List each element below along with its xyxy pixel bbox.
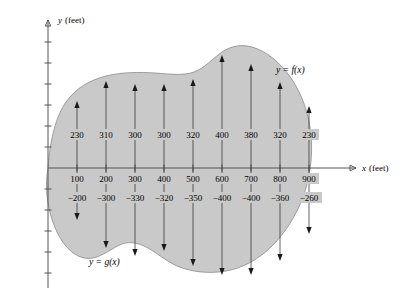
x-axis-title: x(feet) <box>361 163 388 173</box>
upper-curve-label: y = f(x) <box>275 65 305 76</box>
x-tick-label-9: 900 <box>302 174 316 184</box>
y-axis-title-unit: (feet) <box>65 15 84 25</box>
lower-value-8: −360 <box>271 193 290 203</box>
y-axis-title-var: y <box>57 15 62 25</box>
lower-value-2: −300 <box>97 193 116 203</box>
lower-value-3: −330 <box>126 193 145 203</box>
x-tick-label-8: 800 <box>273 174 287 184</box>
lower-value-1: −200 <box>68 193 87 203</box>
lower-value-labels: −200 −300 −330 −320 −350 −400 −400 −360 … <box>68 193 319 203</box>
x-tick-label-7: 700 <box>244 174 258 184</box>
upper-value-labels: 230 310 300 300 320 400 380 320 230 <box>70 130 316 140</box>
x-axis-title-var: x <box>361 163 366 173</box>
shaded-region <box>47 46 312 273</box>
upper-value-9: 230 <box>302 130 316 140</box>
upper-value-2: 310 <box>99 130 113 140</box>
region-between-curves-figure: 230 310 300 300 320 400 380 320 230 100 … <box>0 0 410 296</box>
upper-value-1: 230 <box>70 130 84 140</box>
upper-value-8: 320 <box>273 130 287 140</box>
upper-value-3: 300 <box>128 130 142 140</box>
x-axis-title-unit: (feet) <box>369 163 388 173</box>
upper-value-7: 380 <box>244 130 258 140</box>
lower-value-6: −400 <box>213 193 232 203</box>
x-tick-labels: 100 200 300 400 500 600 700 800 900 <box>70 174 316 184</box>
x-tick-label-2: 200 <box>99 174 113 184</box>
lower-value-4: −320 <box>155 193 174 203</box>
lower-curve-label: y = g(x) <box>88 257 120 268</box>
x-tick-label-6: 600 <box>215 174 229 184</box>
x-tick-label-4: 400 <box>157 174 171 184</box>
lower-value-5: −350 <box>184 193 203 203</box>
upper-value-4: 300 <box>157 130 171 140</box>
lower-value-9: −260 <box>300 193 319 203</box>
upper-value-6: 400 <box>215 130 229 140</box>
x-tick-label-3: 300 <box>128 174 142 184</box>
upper-value-5: 320 <box>186 130 200 140</box>
x-tick-label-1: 100 <box>70 174 84 184</box>
x-tick-label-5: 500 <box>186 174 200 184</box>
y-axis-title: y(feet) <box>57 15 84 25</box>
lower-value-7: −400 <box>242 193 261 203</box>
